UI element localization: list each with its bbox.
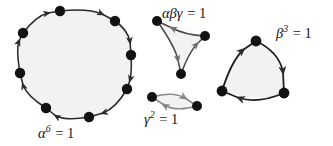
octagon-node [41,103,51,113]
label-gamma-equals: = [158,111,167,127]
label-alphabetagamma-value: 1 [199,5,206,21]
concave-triangle-node [176,69,186,79]
digon-node [192,101,202,111]
label-alpha-value: 1 [67,125,74,141]
label-alpha-relation: α6 = 1 [38,124,74,140]
rounded-triangle-node [279,88,290,99]
rounded-triangle-node [251,36,262,47]
label-beta-relation: β3 = 1 [276,24,312,40]
concave-triangle-node [152,16,162,26]
concave-triangle-fill [157,21,205,74]
label-alphabetagamma-base: αβγ [162,5,183,21]
label-gamma-exponent: 2 [150,109,155,120]
label-beta-equals: = [292,25,301,41]
digon-cycle [147,92,202,111]
octagon-node [18,28,28,38]
octagon-node [126,50,136,60]
label-beta-value: 1 [305,25,312,41]
rounded-triangle-node [217,86,228,97]
octagon-node [84,112,94,122]
label-alphabetagamma-equals: = [186,5,195,21]
label-alpha-equals: = [54,125,63,141]
concave-triangle-node [200,31,210,41]
group-relations-figure: α6 = 1 αβγ = 1 γ2 = 1 β3 = 1 [0,0,333,146]
octagon-node [15,68,25,78]
octagon-node [122,84,132,94]
label-alpha-base: α [38,125,46,141]
label-beta-exponent: 3 [283,23,288,34]
label-gamma-relation: γ2 = 1 [144,110,178,126]
octagon-cycle [15,6,136,122]
label-alphabetagamma-relation: αβγ = 1 [162,4,206,20]
digon-node [147,92,157,102]
rounded-triangle-fill [222,41,284,98]
label-alpha-exponent: 6 [46,123,51,134]
rounded-triangle-cycle [217,36,290,101]
octagon-node [55,6,65,16]
label-gamma-value: 1 [171,111,178,127]
octagon-node [110,16,120,26]
concave-triangle-cycle [152,16,210,79]
